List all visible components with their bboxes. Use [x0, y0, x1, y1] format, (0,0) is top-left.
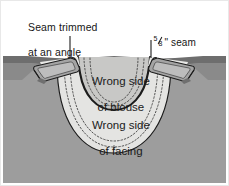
callout-leader-lines: [70, 36, 151, 58]
neckline-facing-figure: Seam trimmed at an angle 58" seam Wrong …: [0, 0, 229, 186]
diagram-artwork: [0, 0, 229, 186]
